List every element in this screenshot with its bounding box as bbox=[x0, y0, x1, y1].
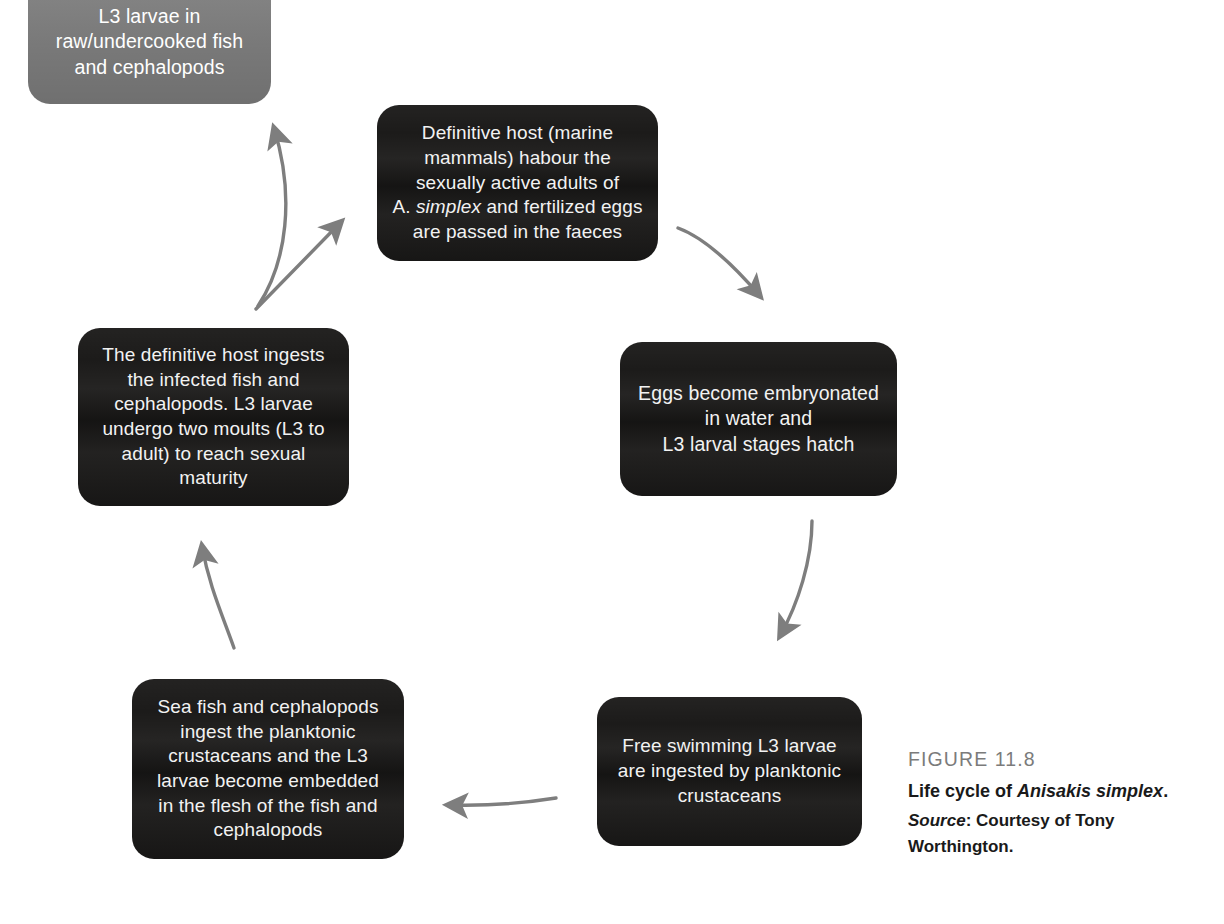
node-raw-fish-label: L3 larvae in raw/undercooked fish and ce… bbox=[40, 4, 259, 80]
node-definitive-host-species-prefix: A. bbox=[392, 196, 416, 217]
figure-title: Life cycle of Anisakis simplex. bbox=[908, 778, 1208, 804]
arrow-host-ingests-to-definitive-host bbox=[256, 222, 341, 309]
figure-caption: FIGURE 11.8 Life cycle of Anisakis simpl… bbox=[908, 748, 1208, 859]
node-raw-fish[interactable]: L3 larvae in raw/undercooked fish and ce… bbox=[28, 0, 271, 104]
figure-title-suffix: . bbox=[1163, 781, 1168, 801]
node-eggs-label: Eggs become embryonated in water and L3 … bbox=[632, 381, 885, 457]
node-free-swimming[interactable]: Free swimming L3 larvae are ingested by … bbox=[597, 697, 862, 846]
arrow-eggs-to-free-swimming bbox=[780, 521, 812, 636]
node-free-swimming-label: Free swimming L3 larvae are ingested by … bbox=[609, 734, 850, 808]
node-sea-fish-label: Sea fish and cephalopods ingest the plan… bbox=[144, 695, 392, 843]
figure-source: Source: Courtesy of Tony Worthington. bbox=[908, 808, 1208, 859]
node-eggs[interactable]: Eggs become embryonated in water and L3 … bbox=[620, 342, 897, 496]
node-definitive-host-species-suffix: and fertilized eggs bbox=[481, 196, 643, 217]
node-host-ingests-label: The definitive host ingests the infected… bbox=[90, 343, 337, 491]
arrow-host-to-eggs bbox=[678, 228, 760, 296]
node-definitive-host-label: Definitive host (marine mammals) habour … bbox=[389, 121, 646, 244]
figure-source-word: Source bbox=[908, 811, 966, 830]
figure-title-species: Anisakis simplex bbox=[1017, 781, 1163, 801]
figure-title-prefix: Life cycle of bbox=[908, 781, 1017, 801]
arrow-free-swimming-to-sea-fish bbox=[448, 798, 556, 805]
figure-number: FIGURE 11.8 bbox=[908, 748, 1208, 771]
node-definitive-host[interactable]: Definitive host (marine mammals) habour … bbox=[377, 105, 658, 261]
node-sea-fish[interactable]: Sea fish and cephalopods ingest the plan… bbox=[132, 679, 404, 859]
arrow-sea-fish-to-host-ingests bbox=[202, 546, 234, 648]
arrow-host-ingests-to-raw-fish bbox=[258, 128, 286, 306]
node-host-ingests[interactable]: The definitive host ingests the infected… bbox=[78, 328, 349, 506]
node-definitive-host-species: simplex bbox=[416, 196, 481, 217]
